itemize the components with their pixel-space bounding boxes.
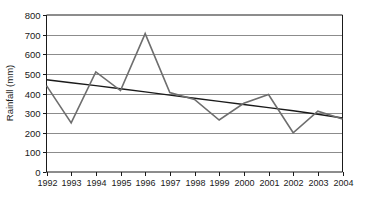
chart-canvas: 8007006005004003002001000 19921993199419… [0, 0, 372, 199]
x-tick-label-2001: 2001 [259, 178, 279, 188]
y-tick-label-100: 100 [25, 147, 41, 158]
y-tick-label-300: 300 [25, 108, 41, 119]
y-tick-label-800: 800 [25, 10, 41, 21]
y-tick-label-600: 600 [25, 49, 41, 60]
x-tick-label-2000: 2000 [234, 178, 254, 188]
rainfall-line-chart: 8007006005004003002001000 19921993199419… [0, 0, 372, 199]
x-tick-label-2002: 2002 [283, 178, 303, 188]
x-tick-label-2003: 2003 [308, 178, 328, 188]
x-tick-label-1992: 1992 [37, 178, 57, 188]
y-tick-label-400: 400 [25, 89, 41, 100]
x-tick-label-1996: 1996 [135, 178, 155, 188]
y-tick-labels-group: 8007006005004003002001000 [25, 10, 41, 178]
y-axis-title: Rainfall (mm) [4, 65, 15, 121]
x-tick-label-1993: 1993 [61, 178, 81, 188]
x-tick-label-1995: 1995 [111, 178, 131, 188]
x-tick-label-2004: 2004 [333, 178, 353, 188]
y-tick-label-500: 500 [25, 69, 41, 80]
y-tick-label-700: 700 [25, 30, 41, 41]
y-tick-label-200: 200 [25, 128, 41, 139]
x-tick-label-1997: 1997 [160, 178, 180, 188]
x-tick-label-1998: 1998 [185, 178, 205, 188]
x-tick-label-1999: 1999 [209, 178, 229, 188]
y-tick-label-0: 0 [35, 167, 40, 178]
x-tick-label-1994: 1994 [86, 178, 106, 188]
